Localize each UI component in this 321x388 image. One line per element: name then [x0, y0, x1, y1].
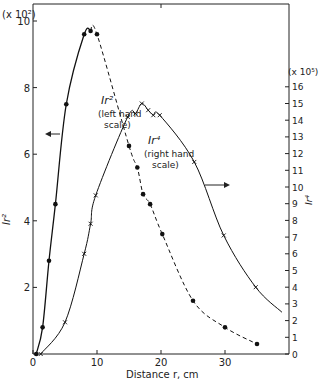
annotation-ir4-sub2: scale): [152, 160, 179, 170]
y-tick-label-right: 8: [292, 216, 298, 226]
y-axis-label-left: Ir²: [1, 214, 12, 225]
y-tick-label-right: 16: [292, 82, 304, 92]
annotation-ir2-sub2: scale): [104, 120, 131, 130]
y-tick-label-right: 4: [292, 283, 298, 293]
y-tick-label-right: 0: [292, 350, 298, 360]
annotation-ir2-sub: (left hand: [98, 109, 142, 119]
ir4-point: [146, 108, 150, 112]
y-tick-label-right: 6: [292, 249, 298, 259]
y-tick-label-left: 6: [24, 149, 30, 160]
y-tick-label-right: 11: [292, 166, 303, 176]
y-tick-label-right: 7: [292, 233, 298, 243]
y-tick-label-right: 10: [292, 183, 304, 193]
ir2-point: [64, 102, 69, 107]
ir2-point: [34, 352, 39, 357]
ir2-point: [141, 192, 146, 197]
annotation-ir4: Ir⁴: [148, 134, 161, 147]
ir2-point: [40, 325, 45, 330]
y-tick-label-right: 12: [292, 149, 303, 159]
left-multiplier: (x 10²): [2, 9, 36, 20]
ir4-point: [192, 160, 196, 164]
y-tick-label-right: 2: [292, 316, 298, 326]
ir2-line-dashed: [91, 25, 257, 344]
axes: 0102030246810012345678910111213141516: [17, 4, 303, 368]
y-tick-label-right: 3: [292, 299, 298, 309]
x-tick-label: 20: [155, 357, 168, 368]
left-arrow: [45, 131, 60, 137]
y-tick-label-left: 8: [24, 83, 30, 94]
y-tick-label-right: 1: [292, 333, 298, 343]
x-axis-label: Distance r, cm: [126, 369, 199, 380]
ir4-point: [254, 285, 258, 289]
ir2-point: [95, 32, 100, 37]
ir2-point: [88, 29, 93, 34]
ir2-point: [127, 144, 132, 149]
y-tick-label-right: 15: [292, 99, 303, 109]
ir2-point: [53, 202, 58, 207]
ir2-point: [255, 342, 260, 347]
ir2-point: [160, 232, 165, 237]
annotation-ir4-sub: (right hand: [144, 149, 194, 159]
y-tick-label-right: 13: [292, 132, 303, 142]
ir4-point: [158, 113, 162, 117]
right-multiplier: (x 10⁵): [288, 67, 318, 77]
y-tick-label-right: 9: [292, 199, 298, 209]
ir2-point: [148, 202, 153, 207]
right-arrow: [205, 182, 230, 188]
y-axis-label-right: Ir⁴: [304, 195, 314, 205]
x-tick-label: 0: [30, 357, 36, 368]
ir2-point: [223, 325, 228, 330]
ir2-point: [82, 32, 87, 37]
ir4-line: [41, 103, 282, 354]
series: [34, 25, 282, 356]
axis-frame: [33, 4, 289, 354]
x-tick-label: 30: [219, 357, 232, 368]
y-tick-label-right: 5: [292, 266, 298, 276]
annotation-ir2: Ir²: [101, 94, 114, 107]
ir4-point: [63, 320, 67, 324]
chart: 0102030246810012345678910111213141516 (x…: [0, 0, 321, 388]
y-tick-label-right: 14: [292, 116, 304, 126]
ir2-line-solid: [36, 28, 90, 354]
y-tick-label-left: 4: [24, 216, 30, 227]
ir4-point: [222, 233, 226, 237]
x-tick-label: 10: [91, 357, 104, 368]
ir2-point: [135, 165, 140, 170]
ir2-point: [191, 298, 196, 303]
ir2-point: [47, 258, 52, 263]
y-tick-label-left: 2: [24, 282, 30, 293]
ir4-point: [151, 113, 155, 117]
